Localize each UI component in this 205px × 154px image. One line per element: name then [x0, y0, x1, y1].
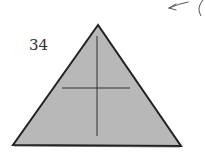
arrow-left-icon [169, 2, 188, 10]
origami-diagram: 34 [0, 0, 205, 154]
diagram-svg [0, 0, 205, 154]
next-step-circle-icon [199, 0, 203, 16]
step-number: 34 [29, 36, 48, 54]
